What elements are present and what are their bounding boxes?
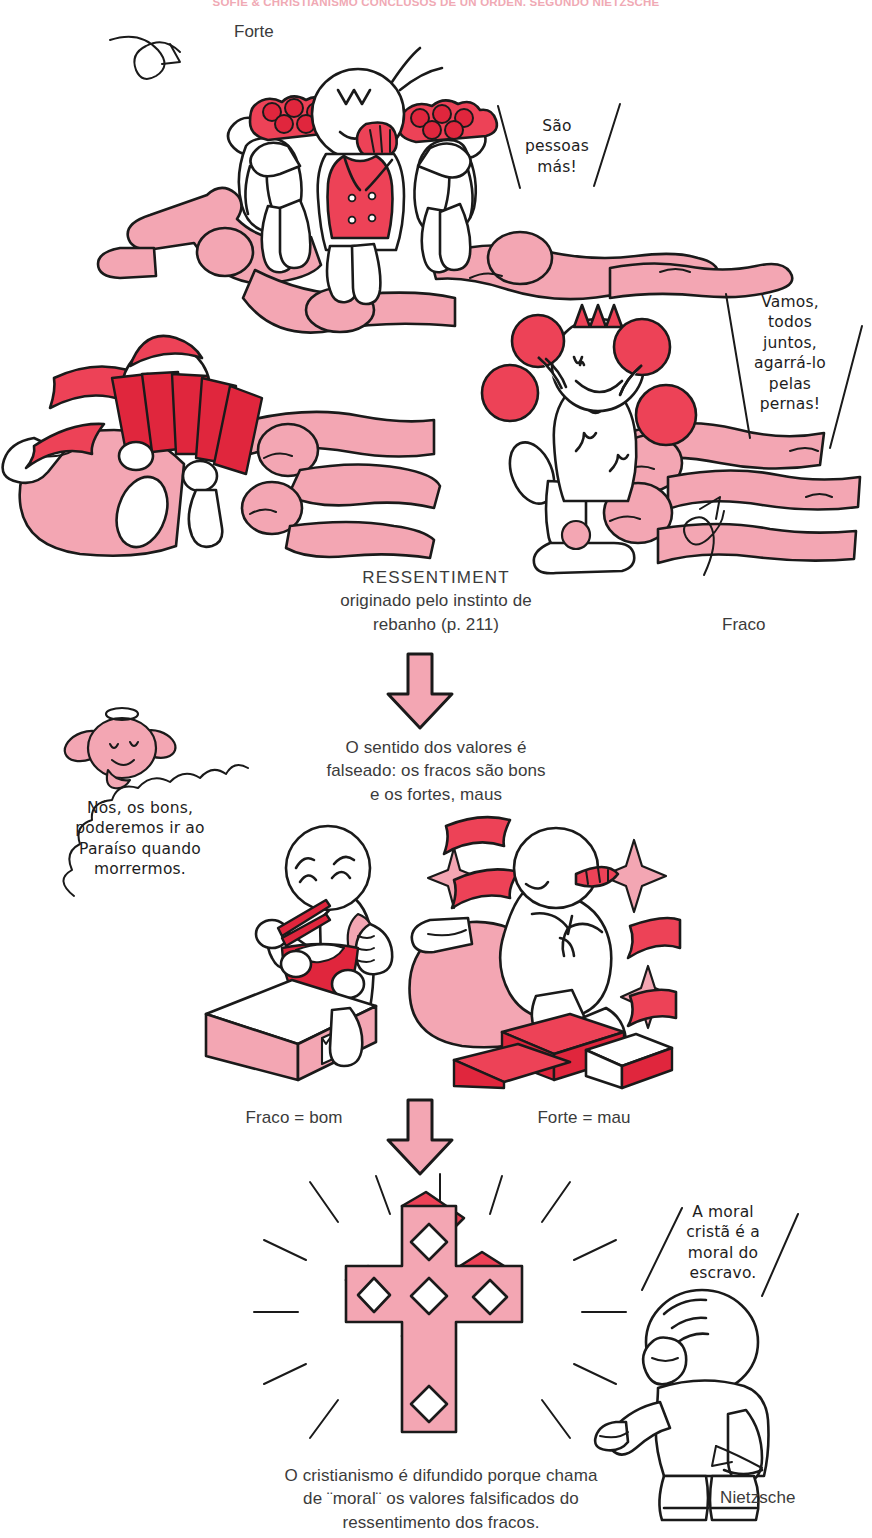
label-fraco: Fraco [722,615,765,635]
pointer-forte-arrow [110,37,180,79]
caption-conclusion-line2: de ¨moral¨ os valores falsificados do [186,1487,696,1510]
running-header: SOFIE & CHRISTIANISMO CONCLUSOS DE UN OR… [0,0,872,6]
caption-conclusion: O cristianismo é difundido porque chama … [186,1464,696,1534]
caption-values: O sentido dos valores é falseado: os fra… [236,736,636,806]
caption-values-line3: e os fortes, maus [236,783,636,806]
speech-nietzsche-line3: moral do [664,1243,782,1263]
label-forte-mau: Forte = mau [494,1106,674,1129]
label-fraco-bom: Fraco = bom [204,1106,384,1129]
page-root: SOFIE & CHRISTIANISMO CONCLUSOS DE UN OR… [0,0,872,1538]
arrow-down-icon-2 [382,1096,458,1178]
label-forte: Forte [234,22,274,42]
caption-values-line1: O sentido dos valores é [236,736,636,759]
speech-nietzsche-line2: cristã é a [664,1222,782,1242]
label-nietzsche: Nietzsche [720,1486,860,1509]
caption-ressentiment: RESSENTIMENT originado pelo instinto de … [236,566,636,636]
speech-angel-line1: Nós, os bons, [52,798,228,818]
caption-ressentiment-line3: rebanho (p. 211) [236,613,636,636]
speech-nietzsche: A moral cristã é a moral do escravo. [664,1202,782,1284]
caption-conclusion-line3: ressentimento dos fracos. [186,1511,696,1534]
speech-nietzsche-line1: A moral [664,1202,782,1222]
illustration-money-figure [0,290,440,570]
illustration-strong-on-pile [0,20,872,320]
caption-values-line2: falseado: os fracos são bons [236,759,636,782]
speech-weak: Vamos, todos juntos, agarrá-lo pelas per… [736,292,844,415]
caption-conclusion-line1: O cristianismo é difundido porque chama [186,1464,696,1487]
arrow-down-icon-1 [382,650,458,732]
caption-ressentiment-line2: originado pelo instinto de [236,589,636,612]
illustration-poor-figure [200,828,440,1088]
illustration-rich-figure [410,818,680,1088]
caption-ressentiment-line1: RESSENTIMENT [236,566,636,589]
illustration-cross [250,1170,630,1450]
speech-strong: São pessoas más! [502,116,612,177]
